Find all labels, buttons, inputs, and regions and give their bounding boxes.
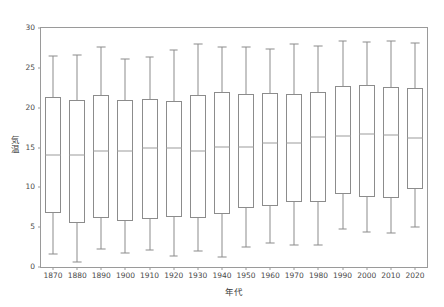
whisker-cap-lower <box>193 251 202 252</box>
x-tick-label: 1980 <box>309 267 328 280</box>
whisker-lower <box>221 214 222 256</box>
whisker-upper <box>294 44 295 94</box>
x-tick-label: 1960 <box>261 267 280 280</box>
x-tick-label: 1910 <box>140 267 159 280</box>
whisker-lower <box>246 208 247 247</box>
median-line <box>238 146 254 147</box>
y-tick-label: 0 <box>30 263 41 271</box>
x-tick-label: 1920 <box>164 267 183 280</box>
whisker-cap-upper <box>411 43 420 44</box>
whisker-lower <box>101 218 102 250</box>
whisker-lower <box>366 197 367 232</box>
y-tick-label: 30 <box>25 24 41 32</box>
whisker-cap-upper <box>49 55 58 56</box>
boxplot-box <box>65 28 89 267</box>
median-line <box>286 142 302 143</box>
whisker-cap-upper <box>290 43 299 44</box>
whisker-lower <box>125 221 126 254</box>
x-tick-label: 1900 <box>116 267 135 280</box>
whisker-upper <box>221 47 222 92</box>
whisker-cap-upper <box>97 47 106 48</box>
boxplot-box <box>379 28 403 267</box>
whisker-upper <box>390 41 391 87</box>
boxplot-box <box>210 28 234 267</box>
median-line <box>166 147 182 148</box>
whisker-cap-lower <box>266 243 275 244</box>
x-tick-label: 2020 <box>405 267 424 280</box>
median-line <box>190 150 206 151</box>
whisker-cap-upper <box>266 48 275 49</box>
boxplot-box <box>138 28 162 267</box>
boxplot-box <box>234 28 258 267</box>
whisker-lower <box>173 217 174 256</box>
box-iqr <box>166 101 182 217</box>
x-tick-label: 1950 <box>237 267 256 280</box>
median-line <box>407 137 423 138</box>
whisker-cap-upper <box>145 56 154 57</box>
whisker-upper <box>77 55 78 100</box>
median-line <box>359 133 375 134</box>
whisker-upper <box>173 50 174 102</box>
boxplot-box <box>282 28 306 267</box>
median-line <box>117 151 133 152</box>
whisker-lower <box>197 218 198 251</box>
box-iqr <box>335 86 351 194</box>
box-iqr <box>93 95 109 218</box>
boxplot-figure: 気温 年代 0510152025301870188018901900191019… <box>0 0 444 307</box>
whisker-cap-upper <box>242 47 251 48</box>
y-tick-label: 20 <box>25 104 41 112</box>
y-tick-label: 25 <box>25 64 41 72</box>
x-axis-title: 年代 <box>40 288 428 297</box>
boxplot-box <box>186 28 210 267</box>
whisker-cap-lower <box>169 255 178 256</box>
boxplot-box <box>355 28 379 267</box>
whisker-cap-lower <box>73 262 82 263</box>
x-tick-label: 1940 <box>212 267 231 280</box>
y-axis-title: 気温 <box>10 136 21 154</box>
whisker-upper <box>101 47 102 95</box>
whisker-upper <box>53 56 54 97</box>
whisker-lower <box>270 206 271 243</box>
whisker-cap-lower <box>97 249 106 250</box>
whisker-cap-lower <box>362 231 371 232</box>
median-line <box>93 151 109 152</box>
whisker-cap-lower <box>290 245 299 246</box>
box-iqr <box>286 94 302 202</box>
boxplot-box <box>403 28 427 267</box>
plot-area: 0510152025301870188018901900191019201930… <box>40 27 428 268</box>
x-tick-label: 1870 <box>44 267 63 280</box>
median-line <box>310 137 326 138</box>
whisker-upper <box>318 46 319 92</box>
boxplot-box <box>89 28 113 267</box>
whisker-cap-lower <box>145 250 154 251</box>
whisker-upper <box>342 41 343 86</box>
box-iqr <box>214 92 230 215</box>
whisker-lower <box>342 194 343 229</box>
median-line <box>45 154 61 155</box>
box-iqr <box>359 85 375 197</box>
whisker-cap-upper <box>193 43 202 44</box>
whisker-upper <box>366 42 367 84</box>
whisker-cap-upper <box>386 40 395 41</box>
box-iqr <box>117 100 133 220</box>
whisker-cap-upper <box>73 55 82 56</box>
whisker-lower <box>53 213 54 254</box>
whisker-cap-lower <box>338 228 347 229</box>
median-line <box>335 135 351 136</box>
whisker-lower <box>149 219 150 250</box>
box-iqr <box>69 100 85 223</box>
y-tick-label: 5 <box>30 223 41 231</box>
box-iqr <box>190 95 206 218</box>
whisker-cap-lower <box>121 253 130 254</box>
whisker-upper <box>414 43 415 88</box>
box-iqr <box>142 99 158 219</box>
whisker-upper <box>125 59 126 100</box>
whisker-lower <box>318 202 319 244</box>
box-iqr <box>383 87 399 199</box>
boxplot-box <box>41 28 65 267</box>
whisker-upper <box>197 44 198 95</box>
box-iqr <box>238 94 254 208</box>
box-iqr <box>262 93 278 207</box>
y-tick-label: 10 <box>25 184 41 192</box>
whisker-cap-upper <box>218 47 227 48</box>
